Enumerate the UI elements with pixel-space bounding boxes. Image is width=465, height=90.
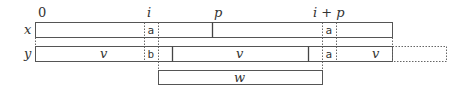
label-i: i bbox=[147, 5, 151, 20]
label-p: p bbox=[214, 5, 223, 20]
x-string-box bbox=[36, 23, 393, 38]
x-cell-a-ip: a bbox=[326, 24, 333, 37]
row-label-y: y bbox=[23, 46, 32, 61]
y-dotted-extension bbox=[393, 47, 447, 62]
y-cell-b: b bbox=[148, 48, 155, 61]
y-segment-v-2: v bbox=[236, 46, 244, 61]
y-string-box bbox=[36, 47, 393, 62]
y-cell-a: a bbox=[326, 48, 333, 61]
y-segment-v-1: v bbox=[100, 46, 108, 61]
w-label: w bbox=[234, 70, 245, 85]
label-zero: 0 bbox=[38, 5, 46, 20]
label-i-plus-p: i + p bbox=[313, 5, 345, 20]
row-label-x: x bbox=[24, 22, 32, 37]
x-cell-a-i: a bbox=[148, 24, 155, 37]
string-diagram: 0 i p i + p x y a a v b v a v w bbox=[0, 0, 465, 90]
y-segment-v-3: v bbox=[372, 46, 380, 61]
